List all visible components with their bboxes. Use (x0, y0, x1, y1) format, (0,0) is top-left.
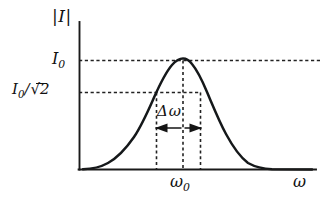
bandwidth-omega-symbol: ω (169, 102, 182, 120)
resonance-curve (83, 59, 312, 170)
y-tick-label-half-power: I0/√2 (12, 82, 50, 100)
x-tick-omega-subscript: 0 (183, 181, 190, 194)
bandwidth-label: Δω (157, 104, 182, 119)
half-power-radical-group: √2 (29, 82, 49, 97)
y-tick-label-peak-intensity: I0 (52, 51, 65, 71)
resonance-curve-figure: |I| I0 I0/√2 Δω ω0 ω (0, 0, 330, 200)
bandwidth-delta-symbol: Δ (157, 102, 169, 120)
x-axis-title: ω (293, 174, 306, 190)
x-tick-label-resonance-frequency: ω0 (170, 174, 190, 194)
x-tick-omega-symbol: ω (170, 172, 183, 191)
y-axis-title: |I| (52, 8, 72, 25)
radical-overbar (36, 83, 47, 84)
y-tick-peak-subscript: 0 (58, 58, 65, 71)
